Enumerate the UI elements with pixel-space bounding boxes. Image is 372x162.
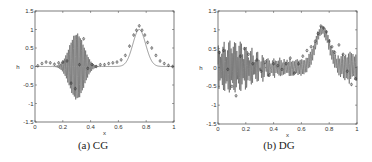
y-axis-label: h: [199, 65, 202, 71]
y-tick-label: 1.5: [208, 8, 217, 14]
y-tick-label: -0.5: [206, 83, 217, 89]
y-tick-label: -1: [28, 101, 34, 107]
y-tick-label: -0.5: [23, 82, 34, 88]
y-tick-label: -1.5: [23, 119, 34, 125]
panel-cg: 00.20.40.60.81-1.5-1-0.500.511.5xh (a) C…: [0, 0, 186, 162]
x-axis-label: x: [103, 130, 106, 136]
x-tick-label: 0.4: [86, 124, 95, 130]
x-tick-label: 0.6: [114, 124, 123, 130]
y-tick-label: 0: [213, 65, 217, 71]
chart-cg: 00.20.40.60.81-1.5-1-0.500.511.5xh: [0, 0, 186, 162]
y-tick-label: -1: [211, 102, 217, 108]
x-tick-label: 0.2: [242, 126, 251, 132]
x-tick-label: 0.8: [325, 126, 334, 132]
y-tick-label: 1: [30, 27, 34, 33]
x-axis-label: x: [286, 132, 289, 138]
caption-cg: (a) CG: [0, 139, 186, 151]
x-tick-label: 0.6: [297, 126, 306, 132]
y-tick-label: -1.5: [206, 121, 217, 127]
x-tick-label: 0.2: [59, 124, 68, 130]
caption-dg: (b) DG: [186, 139, 372, 151]
y-tick-label: 0: [30, 64, 34, 70]
solution-curve: [218, 26, 357, 93]
y-tick-label: 0.5: [25, 45, 34, 51]
x-tick-label: 1: [355, 126, 359, 132]
x-tick-label: 0.8: [142, 124, 151, 130]
x-tick-label: 0: [216, 126, 220, 132]
y-tick-label: 1.5: [25, 8, 34, 14]
y-tick-label: 0.5: [208, 46, 217, 52]
x-tick-label: 1: [172, 124, 176, 130]
y-axis-label: h: [16, 64, 19, 70]
x-tick-label: 0: [33, 124, 37, 130]
panel-dg: 00.20.40.60.81-1.5-1-0.500.511.5xh (b) D…: [186, 0, 372, 162]
x-tick-label: 0.4: [269, 126, 278, 132]
chart-dg: 00.20.40.60.81-1.5-1-0.500.511.5xh: [186, 0, 372, 162]
y-tick-label: 1: [213, 27, 217, 33]
